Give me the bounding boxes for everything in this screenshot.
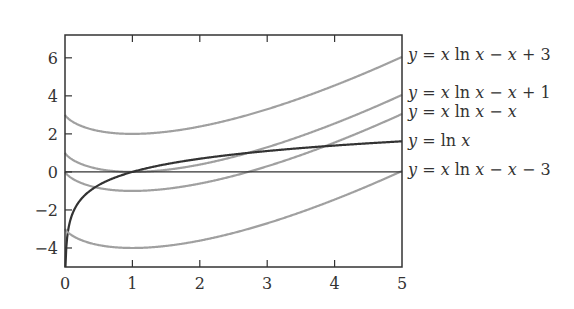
x-tick-label: 3 — [262, 274, 272, 293]
series-line — [65, 57, 402, 134]
series-line — [65, 114, 402, 191]
x-tick-label: 2 — [195, 274, 205, 293]
line-chart: 012345−4−20246 y = x ln x − x + 3 y = x … — [0, 0, 574, 309]
label-lnx: y = ln x — [407, 131, 470, 150]
label-xlnx-minus-x: y = x ln x − x — [407, 102, 517, 121]
y-tick-label: 6 — [48, 49, 58, 68]
x-tick-label: 1 — [127, 274, 137, 293]
y-tick-label: 0 — [48, 163, 58, 182]
axis-ticks: 012345−4−20246 — [34, 35, 407, 293]
y-tick-label: −4 — [34, 239, 58, 258]
series-labels: y = x ln x − x + 3 y = x ln x − x + 1 y … — [407, 45, 551, 179]
y-tick-label: 2 — [48, 125, 58, 144]
y-tick-label: −2 — [34, 201, 58, 220]
label-xlnx-minus-x-minus-3: y = x ln x − x − 3 — [407, 160, 551, 179]
label-xlnx-minus-x-plus-1: y = x ln x − x + 1 — [407, 83, 551, 102]
label-xlnx-minus-x-plus-3: y = x ln x − x + 3 — [407, 45, 551, 64]
plot-curves — [65, 57, 402, 267]
x-tick-label: 5 — [397, 274, 407, 293]
series-line — [65, 171, 402, 248]
x-tick-label: 0 — [60, 274, 70, 293]
x-tick-label: 4 — [330, 274, 340, 293]
y-tick-label: 4 — [48, 87, 58, 106]
